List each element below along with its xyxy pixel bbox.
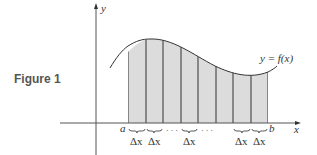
b-label: b — [269, 122, 275, 134]
subinterval-braces — [129, 129, 267, 133]
delta-x-label: Δx — [235, 135, 248, 147]
delta-x-label: Δx — [130, 135, 143, 147]
ellipsis-1: · · · — [166, 126, 178, 135]
curve-label: y = f(x) — [259, 52, 293, 65]
ellipsis-2: · · · — [201, 126, 213, 135]
delta-x-label: Δx — [183, 135, 196, 147]
riemann-diagram: y x y = f(x) a b · · · · · · Δx Δx Δx Δx… — [0, 0, 317, 155]
x-axis-label: x — [293, 123, 299, 135]
y-axis-arrow-icon — [94, 3, 98, 9]
a-label: a — [120, 122, 126, 134]
y-axis-label: y — [100, 2, 106, 14]
delta-x-label: Δx — [253, 135, 266, 147]
delta-x-label: Δx — [148, 135, 161, 147]
